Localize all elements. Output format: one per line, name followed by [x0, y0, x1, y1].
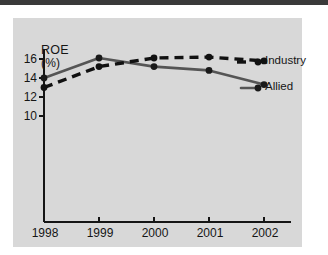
- series-line-allied: [44, 58, 264, 85]
- series-markers-industry: [41, 54, 268, 91]
- chart-plate: ROE (%) 16 14 12 10 1998 1999 2000 2001 …: [13, 18, 302, 247]
- plot-area: [13, 18, 302, 247]
- series-line-industry: [44, 57, 264, 87]
- scan-top-band: [0, 0, 328, 5]
- legend-swatch-allied: [241, 85, 261, 92]
- figure-canvas: ROE (%) 16 14 12 10 1998 1999 2000 2001 …: [0, 0, 328, 255]
